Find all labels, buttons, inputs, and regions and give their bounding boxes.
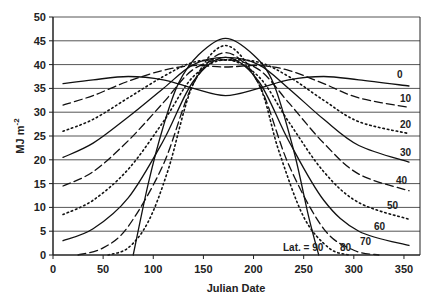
y-tick-label: 35 [34,82,46,94]
y-axis-title: MJ m-2 [12,118,26,154]
label-lat-50: 50 [387,200,399,211]
label-lat-10: 10 [400,93,412,104]
y-tick-label: 25 [34,130,46,142]
label-lat-60: 60 [374,221,386,232]
x-tick-label: 0 [50,263,56,275]
series-lat-20 [63,60,409,134]
label-lat-90: Lat. = 90 [283,242,324,253]
x-tick-labels: 050100150200250300350 [50,255,413,275]
label-lat-80: 80 [340,242,352,253]
y-tick-label: 15 [34,178,46,190]
label-lat-0: 0 [397,69,403,80]
x-tick-label: 350 [395,263,413,275]
y-tick-label: 5 [40,225,46,237]
y-tick-label: 20 [34,154,46,166]
series-lat-50 [63,60,409,219]
x-tick-label: 250 [295,263,313,275]
series-lat-10 [63,65,409,107]
y-tick-label: 40 [34,59,46,71]
series-lines [63,38,409,255]
series-lat-60 [63,57,409,245]
y-tick-label: 10 [34,201,46,213]
label-lat-70: 70 [360,236,372,247]
y-tick-label: 45 [34,35,46,47]
x-tick-label: 50 [97,263,109,275]
y-tick-labels: 05101520253035404550 [34,11,53,261]
y-tick-label: 0 [40,249,46,261]
label-lat-20: 20 [400,119,412,130]
y-tick-label: 50 [34,11,46,23]
x-tick-label: 300 [345,263,363,275]
x-tick-label: 150 [194,263,212,275]
y-tick-label: 30 [34,106,46,118]
label-lat-30: 30 [400,147,412,158]
solar-radiation-chart: 050100150200250300350 051015202530354045… [0,0,434,305]
x-tick-label: 100 [144,263,162,275]
label-lat-40: 40 [396,175,408,186]
x-axis-title: Julian Date [207,282,266,294]
x-tick-label: 200 [244,263,262,275]
series-lat-30 [63,57,409,162]
svg-text:MJ m-2: MJ m-2 [12,118,26,154]
